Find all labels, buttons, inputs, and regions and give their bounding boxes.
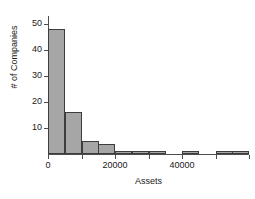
y-tick-label: 30 (16, 71, 42, 80)
histogram-bar (115, 151, 132, 154)
histogram-bar (216, 151, 233, 154)
x-tick-minor (149, 155, 150, 159)
histogram-bar (149, 151, 166, 154)
x-tick-label: 0 (23, 161, 73, 170)
x-tick-label: 20000 (90, 161, 140, 170)
x-tick-minor (249, 155, 250, 159)
plot-area: 1020304050 02000040000 # of Companies As… (0, 0, 255, 199)
y-axis-label: # of Companies (9, 11, 19, 103)
x-tick (48, 155, 49, 159)
y-tick (44, 24, 48, 25)
x-axis-label: Assets (48, 176, 249, 186)
histogram-bar (48, 29, 65, 154)
histogram-bar (98, 144, 115, 154)
y-tick-label: 40 (16, 45, 42, 54)
histogram-figure: 1020304050 02000040000 # of Companies As… (0, 0, 255, 199)
histogram-bar (65, 112, 82, 154)
y-tick-label: 50 (16, 19, 42, 28)
histogram-bar (182, 151, 199, 154)
y-tick-label: 20 (16, 97, 42, 106)
x-tick-label: 40000 (157, 161, 207, 170)
x-tick-minor (216, 155, 217, 159)
x-tick (182, 155, 183, 159)
histogram-bar (82, 141, 99, 154)
x-tick-minor (82, 155, 83, 159)
histogram-bar (132, 151, 149, 154)
histogram-bar (232, 151, 249, 154)
y-tick-label: 10 (16, 123, 42, 132)
x-tick (115, 155, 116, 159)
